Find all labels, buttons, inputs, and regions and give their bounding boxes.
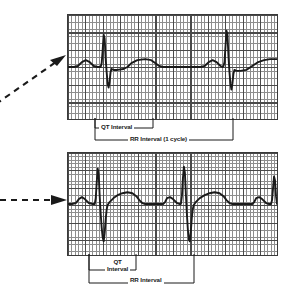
pointer-arrow-bottom [0,192,70,208]
ecg-trace-top-svg [68,15,277,119]
ecg-trace-top [68,31,277,90]
caliper-label-rr-bottom: RR Interval [128,277,164,284]
ecg-strip-top [67,14,278,120]
ecg-figure: QT Interval RR Interval (1 cycle) QT Int… [0,0,291,296]
pointer-arrow-top [0,50,70,102]
ecg-trace-bottom [68,167,277,242]
caliper-label-rr-top: RR Interval (1 cycle) [128,136,189,143]
caliper-label-qt-top: QT Interval [99,124,134,131]
ecg-trace-bottom-svg [68,153,277,255]
caliper-group-bottom [60,254,280,290]
caliper-label-qt-bottom: QT Interval [105,259,130,272]
dashed-arrow-shaft-top [0,62,56,104]
ecg-strip-bottom [67,152,278,256]
caliper-label-qt-bottom-line2: Interval [107,266,128,273]
arrow-head-bottom [51,195,67,205]
